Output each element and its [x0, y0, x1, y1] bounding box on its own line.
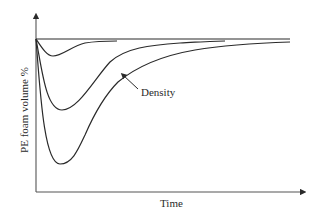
x-axis-label: Time: [160, 197, 183, 209]
plot-area: [0, 0, 317, 215]
density-arrow: [123, 75, 138, 89]
chart: Time PE foam volume % Density: [0, 0, 317, 215]
density-annotation: Density: [141, 86, 175, 98]
y-axis-label: PE foam volume %: [18, 60, 30, 160]
curve-1: [36, 39, 117, 56]
curve-3: [36, 39, 290, 164]
